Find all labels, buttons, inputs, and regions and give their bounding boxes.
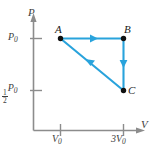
point-label-a: A: [55, 24, 62, 35]
tick-label-p0-subscript: 0: [14, 35, 18, 44]
tick-label-3v0: 3V0: [111, 134, 126, 145]
tick-label-v0: V0: [52, 134, 62, 145]
point-label-c: C: [128, 85, 135, 96]
point-label-b: B: [124, 24, 131, 35]
tick-label-p0: P0: [8, 32, 18, 43]
point-b-dot: [121, 36, 126, 41]
pressure-axis-label: P: [28, 7, 35, 18]
process-paths-group: [61, 35, 128, 91]
pv-cycle-diagram: P V P0 1 2 P0 V0 3V0 A B C: [0, 0, 154, 157]
tick-label-3v0-subscript: 0: [122, 137, 126, 146]
fraction-denominator: 2: [2, 96, 8, 105]
point-c-dot: [121, 88, 126, 93]
arrowhead-a-to-b: [90, 35, 98, 43]
tick-label-3v0-main: 3V: [111, 133, 122, 144]
tick-label-half-p0: 1 2 P0: [2, 83, 18, 105]
point-a-dot: [58, 36, 63, 41]
tick-label-half-p0-subscript: 0: [14, 86, 18, 95]
volume-axis-label: V: [141, 119, 148, 130]
arrowhead-b-to-c: [120, 60, 128, 68]
process-c-to-a: [61, 39, 124, 91]
tick-label-v0-subscript: 0: [58, 137, 62, 146]
